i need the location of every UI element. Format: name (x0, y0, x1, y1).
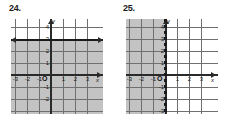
gridline-horizontal (126, 51, 218, 52)
x-tick-label: 2 (70, 76, 81, 83)
gridline-horizontal (126, 87, 218, 88)
x-tick-label: -2 (22, 76, 33, 83)
gridline-horizontal (11, 63, 103, 64)
y-axis-label: y (167, 19, 170, 25)
gridline-horizontal (11, 111, 103, 112)
y-tick-label: -1 (155, 84, 164, 91)
y-tick-label: -1 (40, 84, 49, 91)
x-tick-label: -2 (136, 76, 147, 83)
gridline-horizontal (11, 87, 103, 88)
problem-25: 25. (114, 0, 227, 120)
gridline-horizontal (126, 39, 218, 40)
gridline-horizontal (11, 99, 103, 100)
x-tick-label: 2 (184, 76, 195, 83)
worksheet-page: 24. (0, 0, 227, 120)
x-tick-label: 3 (82, 76, 93, 83)
gridline-horizontal (126, 27, 218, 28)
x-tick-label: 1 (58, 76, 69, 83)
gridline-horizontal (126, 111, 218, 112)
y-tick-label: -2 (155, 96, 164, 103)
gridline-horizontal (11, 27, 103, 28)
origin-label: O (42, 75, 47, 83)
boundary-arrow-left-icon (11, 37, 16, 43)
gridline-horizontal (126, 63, 218, 64)
x-tick-label: 3 (196, 76, 207, 83)
x-axis-label: x (211, 77, 214, 84)
x-tick-label: -3 (126, 76, 135, 83)
x-axis-label: x (96, 77, 99, 84)
y-tick-label: -3 (155, 108, 164, 114)
y-tick-label: 1 (40, 60, 49, 67)
x-tick-label: 1 (172, 76, 183, 83)
x-tick-label: -3 (11, 76, 21, 83)
y-tick-label: 3 (40, 36, 49, 43)
boundary-arrow-right-icon (98, 37, 103, 43)
problem-number-label: 25. (123, 3, 135, 14)
y-tick-label: 4 (40, 24, 49, 31)
y-tick-label: 1 (155, 60, 164, 67)
coordinate-graph-25: -3 -2 -1 1 2 3 4 3 2 1 -1 -2 -3 O x y (126, 19, 218, 114)
y-axis (50, 19, 52, 114)
problem-number-label: 24. (9, 3, 21, 14)
y-axis-label: y (52, 19, 55, 25)
coordinate-graph-24: -3 -2 -1 1 2 3 4 3 2 1 -1 -2 O x y (11, 19, 103, 114)
origin-label: O (157, 75, 162, 83)
boundary-line (11, 39, 103, 41)
gridline-horizontal (126, 99, 218, 100)
problem-24: 24. (0, 0, 113, 120)
gridline-horizontal (11, 51, 103, 52)
y-tick-label: 3 (155, 36, 164, 43)
y-tick-label: -2 (40, 96, 49, 103)
y-tick-label: 2 (155, 48, 164, 55)
y-tick-label: 2 (40, 48, 49, 55)
boundary-line (164, 19, 167, 114)
y-tick-label: 4 (155, 24, 164, 31)
